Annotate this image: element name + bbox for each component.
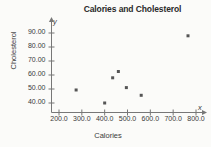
y-tick-label: 40.00 [12,98,46,105]
data-point [140,94,143,97]
scatter-chart: Calories and Cholesterol Cholesterol Cal… [0,0,211,147]
axis-lines [49,17,207,115]
y-tick-label: 70.00 [12,56,46,63]
data-point [103,102,106,105]
y-tick-label: 80.00 [12,42,46,49]
data-point [117,70,120,73]
y-tick-label: 60.00 [12,70,46,77]
axis-ticks [49,33,197,116]
data-point [111,76,114,79]
data-point [75,88,78,91]
data-point [187,34,190,37]
y-tick-label: 90.00 [12,28,46,35]
y-tick-label: 50.00 [12,84,46,91]
x-tick-label: 800.0 [180,115,211,122]
data-points [75,34,190,104]
data-point [125,86,128,89]
